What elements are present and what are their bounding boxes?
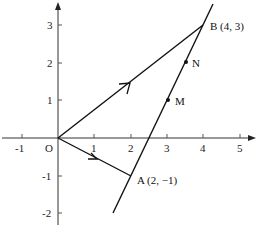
y-tick-label: -1 [42, 170, 51, 182]
y-tick-label: 1 [47, 94, 53, 106]
point-M-label: M [175, 95, 185, 107]
point-N [184, 60, 188, 64]
y-tick-label: 2 [47, 57, 53, 69]
x-tick-label: -1 [15, 142, 24, 154]
y-tick-label: -2 [42, 207, 51, 219]
point-A-label: A (2, −1) [137, 174, 177, 187]
y-ticks [58, 25, 62, 213]
point-N-label: N [192, 57, 200, 69]
x-tick-label: 5 [237, 142, 243, 154]
y-tick-label: 3 [47, 19, 53, 31]
vector-OB [58, 25, 203, 138]
origin-label: O [45, 142, 53, 154]
x-ticks [22, 134, 240, 138]
axes [2, 6, 250, 225]
y-axis-arrowhead-icon [55, 2, 61, 10]
x-tick-label: 4 [200, 142, 206, 154]
x-tick-label: 2 [128, 142, 134, 154]
point-M [166, 98, 170, 102]
point-B-label: B (4, 3) [210, 20, 244, 33]
coordinate-diagram: -1 1 2 3 4 5 3 2 1 -1 -2 O B (4, 3) A (2… [0, 0, 262, 227]
x-axis-arrowhead-icon [248, 135, 256, 141]
x-tick-label: 3 [164, 142, 170, 154]
x-tick-label: 1 [91, 142, 97, 154]
